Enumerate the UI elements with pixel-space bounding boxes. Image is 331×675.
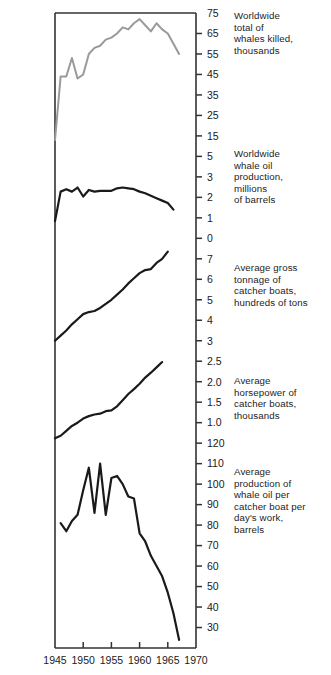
y-axis-tick-label: 3 [207, 171, 213, 183]
y-axis-tick-label: 120 [207, 437, 225, 449]
y-axis-tick-label: 90 [207, 498, 219, 510]
y-axis-tick-label: 1 [207, 212, 213, 224]
x-axis-tick-label: 1945 [43, 654, 67, 666]
y-axis-tick-label: 80 [207, 519, 219, 531]
y-axis-tick-label: 45 [207, 68, 219, 80]
y-axis-tick-label: 30 [207, 621, 219, 633]
y-axis-tick-label: 70 [207, 539, 219, 551]
y-axis-tick-label: 25 [207, 109, 219, 121]
y-axis-tick-label: 4 [207, 314, 213, 326]
panel-caption-whales-killed: Worldwide total of whales killed, thousa… [234, 10, 331, 56]
series-line-production-per-boat-day [61, 464, 179, 640]
y-axis-tick-label: 1.5 [207, 396, 222, 408]
y-axis-tick-label: 3 [207, 335, 213, 347]
series-line-whale-oil-production [55, 188, 173, 222]
y-axis-tick-label: 6 [207, 273, 213, 285]
y-axis-tick-label: 1.0 [207, 416, 222, 428]
y-axis-tick-label: 0 [207, 232, 213, 244]
y-axis-tick-label: 2.0 [207, 376, 222, 388]
y-axis-tick-label: 50 [207, 580, 219, 592]
series-line-average-horsepower [55, 362, 162, 438]
x-axis-tick-label: 1955 [100, 654, 124, 666]
y-axis-tick-label: 65 [207, 27, 219, 39]
y-axis-tick-label: 2.5 [207, 355, 222, 367]
series-line-average-gross-tonnage [55, 252, 168, 341]
series-line-whales-killed [55, 19, 179, 140]
y-axis-tick-label: 100 [207, 478, 225, 490]
whaling-statistics-chart: 7565554535251553210765432.52.01.51.01201… [0, 0, 331, 675]
panel-caption-production-per-boat-day: Average production of whale oil per catc… [234, 466, 331, 536]
x-axis-tick-label: 1965 [156, 654, 180, 666]
y-axis-tick-label: 75 [207, 7, 219, 19]
y-axis-tick-label: 5 [207, 150, 213, 162]
x-axis-tick-label: 1950 [72, 654, 96, 666]
y-axis-tick-label: 5 [207, 294, 213, 306]
y-axis-tick-label: 35 [207, 89, 219, 101]
y-axis-tick-label: 110 [207, 457, 224, 469]
panel-caption-whale-oil-production: Worldwide whale oil production, millions… [234, 148, 331, 206]
panel-caption-average-gross-tonnage: Average gross tonnage of catcher boats, … [234, 262, 331, 308]
x-axis-tick-label: 1970 [184, 654, 208, 666]
chart-plot-area: 7565554535251553210765432.52.01.51.01201… [0, 0, 331, 675]
y-axis-tick-label: 55 [207, 48, 219, 60]
y-axis-tick-label: 60 [207, 560, 219, 572]
y-axis-tick-label: 15 [207, 130, 219, 142]
x-axis-tick-label: 1960 [128, 654, 152, 666]
y-axis-tick-label: 2 [207, 191, 213, 203]
y-axis-tick-label: 40 [207, 601, 219, 613]
panel-caption-average-horsepower: Average horsepower of catcher boats, tho… [234, 375, 331, 421]
y-axis-tick-label: 7 [207, 253, 213, 265]
